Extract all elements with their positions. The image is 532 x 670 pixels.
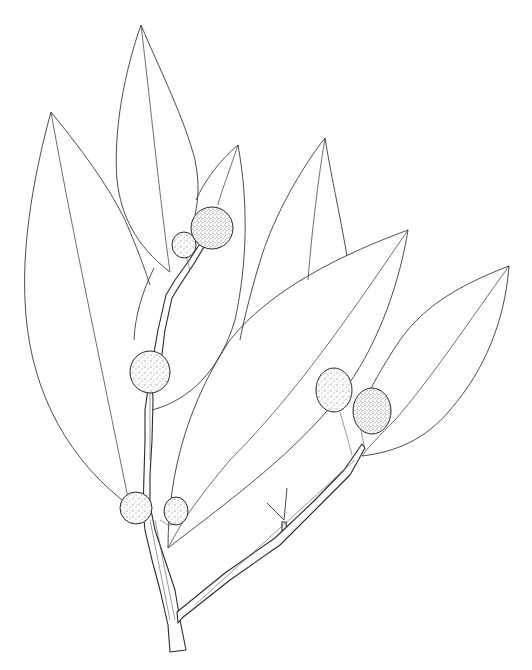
flower-head-middle — [130, 351, 170, 393]
leaf-left-large — [25, 112, 150, 500]
flower-head-lower-small — [164, 497, 188, 525]
botanical-illustration — [0, 0, 532, 670]
flower-heads — [120, 207, 391, 525]
flower-head-right-b — [353, 388, 391, 434]
branch-drawing — [0, 0, 532, 670]
flower-head-right-a — [316, 368, 352, 412]
leaf-upper-right — [240, 138, 347, 340]
main-stem — [143, 245, 205, 652]
side-branch — [177, 444, 365, 623]
flower-head-lower-left — [120, 492, 152, 524]
flower-head-top-small — [172, 232, 196, 258]
flower-head-top-large — [191, 207, 233, 249]
